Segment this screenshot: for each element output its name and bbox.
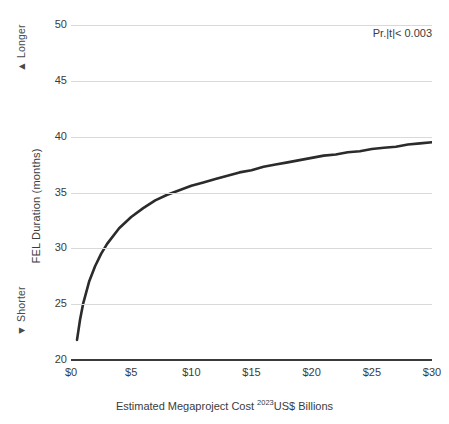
gridline	[71, 81, 432, 82]
x-axis-title-part2: US$ Billions	[274, 400, 333, 412]
x-axis-title-superscript: 2023	[257, 398, 274, 407]
plot-area	[71, 25, 432, 360]
gridline	[71, 137, 432, 138]
y-tick-label: 25	[33, 297, 67, 309]
x-axis-title-part1: Estimated Megaproject Cost	[116, 400, 257, 412]
y-tick-label: 35	[33, 186, 67, 198]
x-axis-title: Estimated Megaproject Cost 2023US$ Billi…	[0, 398, 449, 412]
y-tick-label: 45	[33, 74, 67, 86]
x-tick-label: $10	[169, 366, 213, 378]
gridline	[71, 193, 432, 194]
y-tick-label: 30	[33, 241, 67, 253]
x-tick-label: $30	[410, 366, 449, 378]
significance-annotation: Pr.|t|< 0.003	[373, 27, 432, 39]
y-tick-label: 20	[33, 353, 67, 365]
chart-container: ▲ Longer FEL Duration (months) ▼ Shorter…	[0, 0, 449, 424]
x-tick-label: $25	[350, 366, 394, 378]
x-tick-label: $5	[109, 366, 153, 378]
curve-path	[77, 142, 432, 340]
y-tick-label: 50	[33, 18, 67, 30]
x-tick-label: $15	[230, 366, 274, 378]
x-tick-label: $0	[49, 366, 93, 378]
axis-baseline	[71, 359, 432, 361]
gridline	[71, 25, 432, 26]
gridline	[71, 304, 432, 305]
gridline	[71, 248, 432, 249]
y-tick-label: 40	[33, 130, 67, 142]
x-tick-label: $20	[290, 366, 334, 378]
